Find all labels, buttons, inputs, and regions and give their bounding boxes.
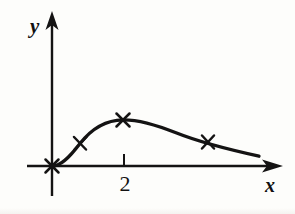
data-point-marker	[74, 137, 87, 150]
figure-container: y x 2	[0, 0, 295, 214]
x-tick-label-2: 2	[116, 173, 134, 195]
curve-path	[52, 120, 259, 166]
data-point-markers	[46, 114, 215, 173]
graph-figure	[0, 0, 295, 214]
y-axis-label: y	[30, 16, 39, 37]
x-axis-label: x	[265, 175, 275, 195]
